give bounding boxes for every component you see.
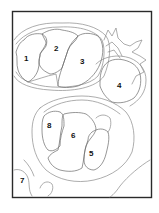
label-3: 3 <box>80 57 85 66</box>
label-5: 5 <box>89 149 94 158</box>
label-6: 6 <box>71 131 76 140</box>
region-1-outline <box>16 34 47 82</box>
bottom-circle-inner <box>44 100 120 114</box>
spiky-structure-inner <box>106 42 122 58</box>
label-7: 7 <box>20 176 25 185</box>
label-4: 4 <box>117 81 122 90</box>
region-divider <box>28 74 58 86</box>
bottom-right-line <box>110 160 150 197</box>
spiky-structure <box>104 28 146 84</box>
region-5-outline <box>84 129 109 170</box>
label-1: 1 <box>24 54 29 63</box>
small-loop <box>40 182 53 196</box>
figure-frame <box>13 12 152 198</box>
diagram-figure: 1 2 3 4 5 6 7 8 <box>0 0 159 213</box>
label-2: 2 <box>54 44 59 53</box>
region-6-outline <box>48 113 96 172</box>
label-8: 8 <box>47 121 52 130</box>
bottom-circle-outline <box>32 96 134 182</box>
